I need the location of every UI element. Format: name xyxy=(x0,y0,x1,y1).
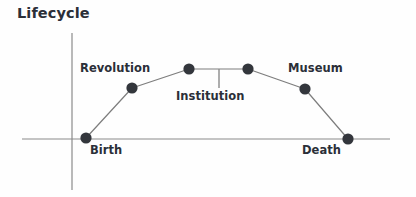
data-point-institution-end[interactable] xyxy=(242,63,253,74)
data-point-death[interactable] xyxy=(342,133,353,144)
data-point-museum[interactable] xyxy=(299,83,310,94)
lifecycle-curve xyxy=(86,69,348,139)
label-revolution: Revolution xyxy=(80,61,150,75)
label-institution: Institution xyxy=(176,89,245,103)
label-birth: Birth xyxy=(90,143,122,157)
page-title: Lifecycle xyxy=(17,5,90,21)
label-museum: Museum xyxy=(288,61,343,75)
data-point-birth[interactable] xyxy=(80,132,91,143)
data-point-revolution[interactable] xyxy=(126,82,137,93)
label-death: Death xyxy=(302,143,341,157)
data-point-institution-start[interactable] xyxy=(183,63,194,74)
lifecycle-diagram: Lifecycle Revolution Institution Museum … xyxy=(0,0,416,197)
